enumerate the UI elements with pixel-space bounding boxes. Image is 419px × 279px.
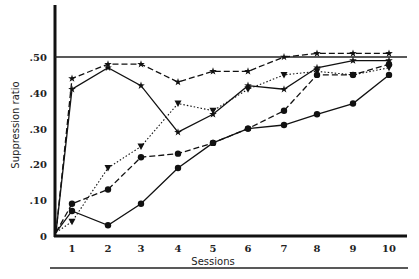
- line-chart: 0.10.20.30.40.5012345678910SessionsSuppr…: [0, 0, 419, 279]
- series-line: [56, 64, 389, 232]
- x-tick-label: 4: [175, 243, 182, 254]
- triangle-marker: [138, 144, 145, 151]
- triangle-marker: [245, 86, 252, 93]
- x-tick-label: 3: [138, 243, 145, 254]
- circle-marker: [138, 201, 144, 207]
- circle-marker: [314, 72, 320, 78]
- circle-marker: [175, 165, 181, 171]
- series-group: [56, 49, 393, 232]
- circle-marker: [69, 201, 75, 207]
- circle-marker: [245, 125, 251, 131]
- y-tick-label: 0: [40, 231, 47, 242]
- circle-marker: [175, 150, 181, 156]
- star-marker: [137, 82, 145, 89]
- x-tick-label: 1: [69, 243, 76, 254]
- circle-marker: [281, 122, 287, 128]
- circle-marker: [69, 208, 75, 214]
- series-solid-star: [56, 57, 393, 233]
- circle-marker: [314, 111, 320, 117]
- triangle-marker: [69, 219, 76, 226]
- y-axis-title: Suppression ratio: [10, 81, 21, 168]
- x-tick-label: 10: [382, 243, 396, 254]
- y-tick-label: .40: [30, 88, 47, 99]
- series-dotted-triangle: [56, 65, 393, 233]
- y-tick-label: .30: [30, 124, 47, 135]
- x-tick-label: 5: [210, 243, 217, 254]
- circle-marker: [138, 154, 144, 160]
- series-line: [56, 53, 389, 232]
- x-tick-label: 7: [281, 243, 288, 254]
- circle-marker: [386, 61, 392, 67]
- y-tick-label: .50: [30, 52, 47, 63]
- series-line: [56, 61, 389, 233]
- x-tick-label: 9: [350, 243, 357, 254]
- x-tick-label: 6: [245, 243, 252, 254]
- circle-marker: [281, 108, 287, 114]
- series-dashed-star: [56, 49, 393, 232]
- circle-marker: [350, 72, 356, 78]
- star-marker: [280, 53, 288, 60]
- x-tick-label: 8: [314, 243, 321, 254]
- x-tick-label: 2: [105, 243, 112, 254]
- star-marker: [313, 49, 321, 56]
- circle-marker: [386, 72, 392, 78]
- series-line: [56, 68, 389, 233]
- triangle-marker: [105, 165, 112, 172]
- circle-marker: [350, 100, 356, 106]
- y-tick-label: .10: [30, 195, 47, 206]
- circle-marker: [210, 140, 216, 146]
- x-axis-title: Sessions: [191, 256, 234, 267]
- star-marker: [137, 60, 145, 67]
- circle-marker: [105, 186, 111, 192]
- y-tick-label: .20: [30, 159, 47, 170]
- series-dashed-circle: [56, 61, 392, 232]
- series-solid-circle: [56, 72, 392, 233]
- series-line: [56, 75, 389, 233]
- circle-marker: [105, 222, 111, 228]
